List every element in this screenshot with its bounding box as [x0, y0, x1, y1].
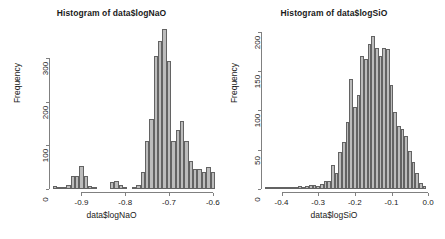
y-axis-tick-label: 200 — [253, 31, 262, 53]
y-axis-tick-label: 0 — [41, 189, 50, 211]
x-axis-tick-label: -0.1 — [385, 198, 399, 207]
x-axis-line — [81, 192, 212, 193]
histogram-bar — [423, 186, 427, 189]
histogram-bars — [53, 28, 215, 189]
x-axis-title: data$logSiO — [223, 210, 445, 220]
panel-logNaO: Histogram of data$logNaO Frequency data$… — [0, 0, 223, 239]
y-axis-tick-label: 100 — [253, 110, 262, 132]
plot-area-logSiO — [265, 28, 430, 189]
y-axis-tick-label: 50 — [253, 149, 262, 171]
x-axis-tick-label: -0.2 — [348, 198, 362, 207]
x-axis-tick-label: -0.9 — [75, 198, 89, 207]
x-axis-tick — [81, 193, 82, 196]
x-axis-tick — [318, 193, 319, 196]
panel-logSiO: Histogram of data$logSiO Frequency data$… — [223, 0, 445, 239]
histogram-figure: Histogram of data$logNaO Frequency data$… — [0, 0, 445, 239]
x-axis-tick-label: -0.3 — [311, 198, 325, 207]
y-axis-tick-label: 0 — [253, 189, 262, 211]
x-axis-tick — [392, 193, 393, 196]
x-axis-tick-label: -0.6 — [206, 198, 220, 207]
x-axis-tick — [355, 193, 356, 196]
x-axis-tick — [213, 193, 214, 196]
y-axis-tick-label: 100 — [41, 145, 50, 167]
histogram-bar — [211, 172, 215, 189]
x-axis-tick — [125, 193, 126, 196]
y-axis-tick-label: 150 — [253, 71, 262, 93]
y-axis-tick-label: 300 — [41, 58, 50, 80]
x-axis-tick — [169, 193, 170, 196]
plot-area-logNaO — [53, 28, 215, 189]
x-axis-tick-label: -0.8 — [118, 198, 132, 207]
y-axis-tick-label: 200 — [41, 101, 50, 123]
histogram-bars — [265, 28, 430, 189]
histogram-bar — [123, 187, 127, 189]
x-axis-tick — [428, 193, 429, 196]
y-axis-title: Frequency — [12, 60, 22, 106]
x-axis-tick — [282, 193, 283, 196]
y-axis-title: Frequency — [229, 60, 239, 106]
x-axis-tick-label: -0.7 — [162, 198, 176, 207]
x-axis-tick-label: -0.4 — [275, 198, 289, 207]
histogram-bar — [92, 187, 96, 189]
panel-title: Histogram of data$logSiO — [223, 8, 445, 18]
panel-title: Histogram of data$logNaO — [0, 8, 223, 18]
x-axis-tick-label: 0.0 — [423, 198, 434, 207]
x-axis-title: data$logNaO — [0, 210, 223, 220]
